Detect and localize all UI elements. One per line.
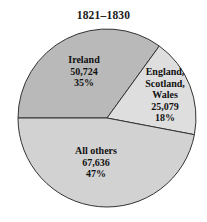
pie-slices-group bbox=[18, 29, 196, 207]
pie-chart-canvas bbox=[0, 0, 207, 222]
pie-svg bbox=[0, 0, 207, 222]
pie-chart-figure: 1821–1830 Ireland 50,724 35% England, Sc… bbox=[0, 0, 207, 222]
pie-slice-all-others[interactable] bbox=[18, 118, 194, 207]
